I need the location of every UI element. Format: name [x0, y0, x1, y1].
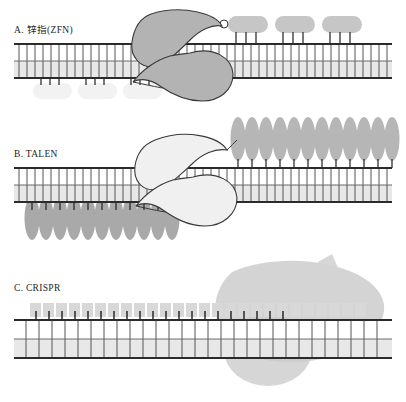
panel-label-b: B. TALEN — [14, 150, 58, 160]
panel-label-a: A. 锌指(ZFN) — [14, 26, 73, 36]
zfn-top-contacts — [236, 32, 350, 44]
panel-c-crispr — [14, 254, 392, 386]
zfn-bottom-modules — [33, 83, 162, 99]
dna-duplex-c — [14, 320, 392, 358]
panel-a-text: A. 锌指(ZFN) — [14, 25, 73, 35]
talen-top-repeats — [231, 117, 400, 161]
figure-canvas — [0, 0, 406, 402]
panel-c-text: C. CRISPR — [14, 283, 61, 293]
panel-b-talen — [14, 117, 400, 240]
panel-a-zfn — [14, 10, 392, 101]
panel-label-c: C. CRISPR — [14, 284, 61, 294]
talen-top-contacts — [238, 159, 392, 168]
zfn-top-modules — [228, 16, 362, 33]
gene-editing-figure: A. 锌指(ZFN) B. TALEN C. CRISPR — [0, 0, 406, 402]
panel-b-text: B. TALEN — [14, 149, 58, 159]
